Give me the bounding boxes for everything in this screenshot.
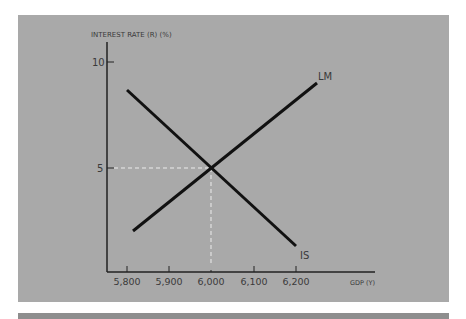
y-tick-label-5: 5	[97, 163, 103, 174]
x-tick-label: 6,200	[282, 276, 309, 287]
is-curve-label: IS	[300, 250, 309, 261]
x-tick-label: 5,800	[113, 276, 140, 287]
lm-curve-label: LM	[318, 71, 332, 82]
x-axis-label: GDP (Y)	[350, 279, 375, 287]
x-tick-label: 5,900	[155, 276, 182, 287]
y-tick-label-10: 10	[92, 57, 105, 68]
is-lm-chart: INTEREST RATE (R) (%) 10 5 5,800 5,900 6…	[0, 0, 466, 319]
y-axis-label: INTEREST RATE (R) (%)	[91, 31, 172, 39]
lm-curve	[133, 83, 317, 231]
x-tick-label: 6,100	[240, 276, 267, 287]
x-tick-label: 6,000	[197, 276, 224, 287]
